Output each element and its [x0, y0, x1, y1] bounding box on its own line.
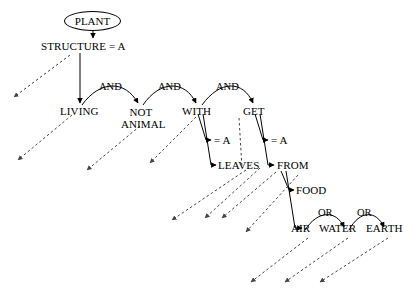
node-from[interactable]: FROM [277, 160, 309, 171]
node-with-eq-a[interactable]: = A [214, 135, 231, 146]
node-earth[interactable]: EARTH [366, 223, 403, 234]
node-not-animal-line1: NOT [121, 106, 161, 118]
node-structure[interactable]: STRUCTURE = A [41, 41, 126, 52]
edge-with-to-eq-a [198, 114, 211, 140]
ref-arrow-water [285, 238, 348, 282]
edge-get-to-eq-a [255, 114, 268, 140]
connective-and-3: AND [216, 81, 239, 92]
ref-arrow-leaves [172, 170, 246, 220]
ref-arrow-earth [320, 238, 388, 282]
node-get-eq-a[interactable]: = A [271, 135, 288, 146]
node-not-animal[interactable]: NOT ANIMAL [121, 106, 161, 130]
node-with[interactable]: WITH [182, 106, 211, 117]
ref-arrow-not-animal [87, 126, 140, 170]
ref-arrow-structure [14, 55, 70, 97]
connective-and-1: AND [99, 81, 122, 92]
connective-or-1: OR [318, 207, 333, 218]
connective-and-2: AND [158, 81, 181, 92]
node-get[interactable]: GET [243, 106, 265, 117]
node-leaves[interactable]: LEAVES [218, 160, 259, 171]
node-air[interactable]: AIR [291, 223, 310, 234]
connective-or-2: OR [357, 207, 372, 218]
node-plant[interactable]: PLANT [64, 11, 121, 31]
node-not-animal-line2: ANIMAL [121, 118, 161, 130]
node-water[interactable]: WATER [319, 223, 356, 234]
ref-arrow-air [251, 238, 308, 282]
node-living[interactable]: LIVING [60, 106, 98, 117]
node-food[interactable]: FOOD [296, 185, 326, 196]
semantic-network-diagram: PLANT STRUCTURE = A LIVING NOT ANIMAL WI… [0, 0, 419, 298]
node-plant-label: PLANT [75, 15, 110, 27]
ref-arrow-living [18, 115, 72, 160]
